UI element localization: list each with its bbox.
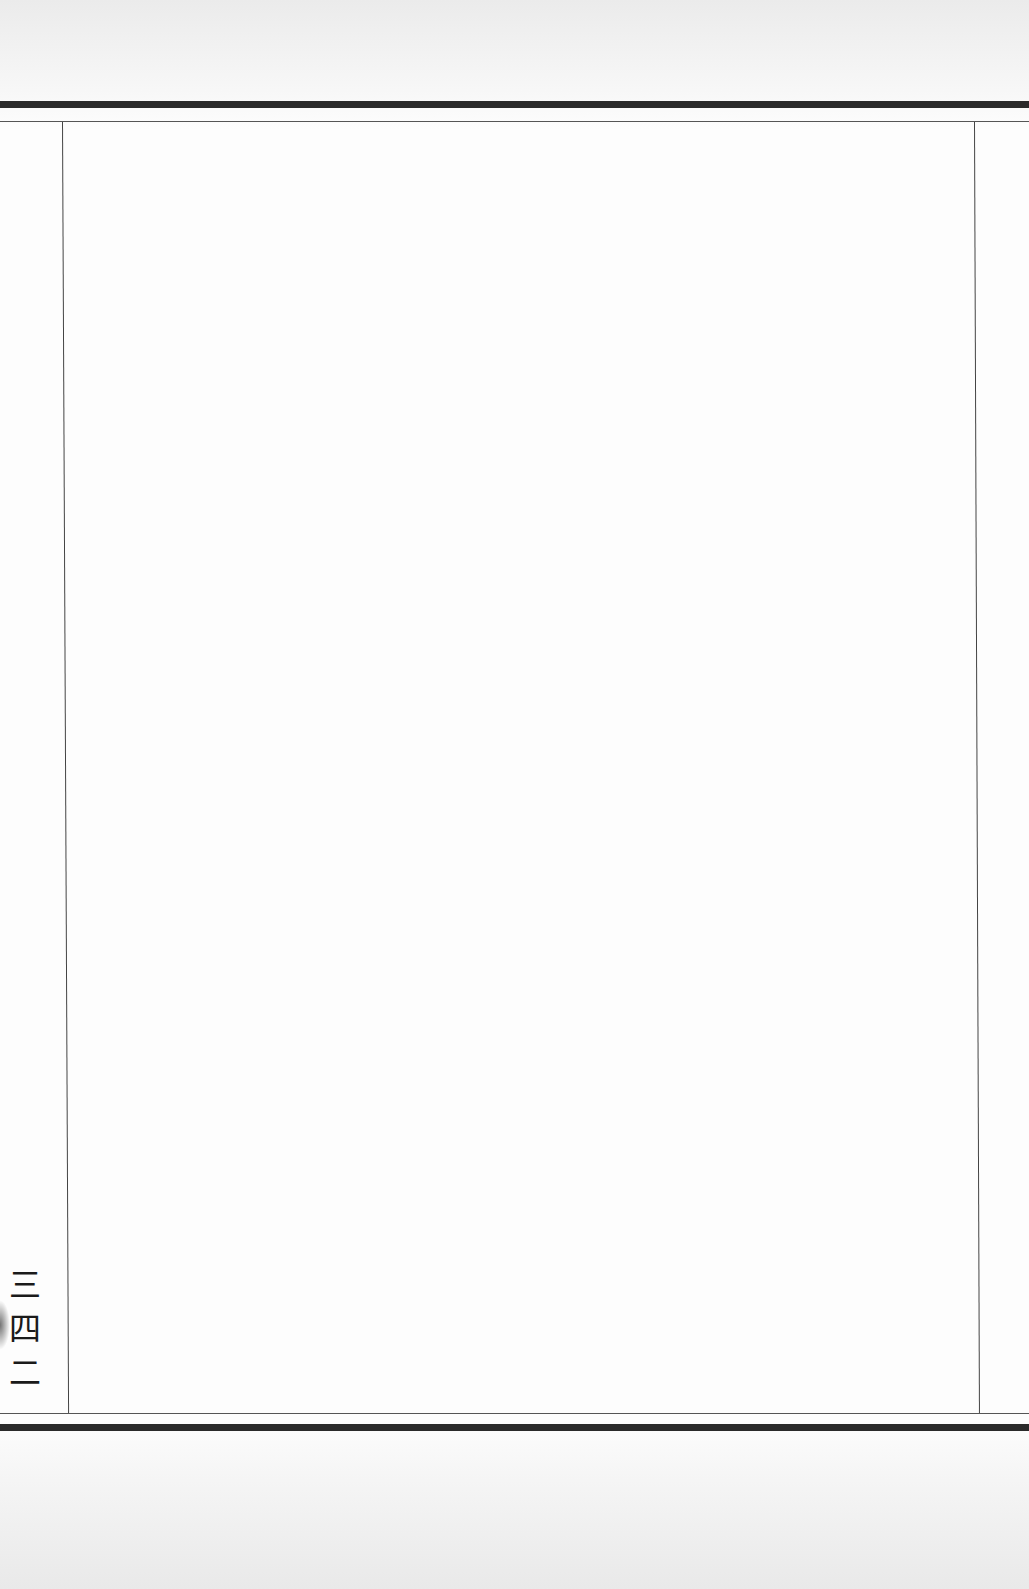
page-number: 三四二 [3,1268,41,1400]
bottom-thick-rule [0,1424,1029,1431]
page-body [63,122,973,1412]
bottom-thin-rule [0,1413,1029,1414]
top-thick-rule [0,101,1029,108]
